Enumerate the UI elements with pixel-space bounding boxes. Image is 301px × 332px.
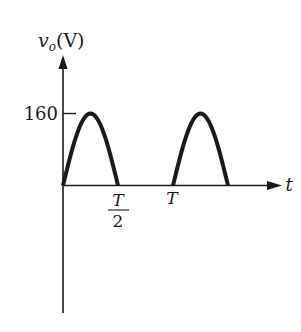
- x-axis-label: t: [285, 174, 293, 195]
- x-axis-arrow-icon: [267, 181, 282, 190]
- y-tick-label-160: 160: [24, 103, 58, 124]
- y-axis-label-unit: (V): [56, 29, 85, 51]
- x-tick-label-half-denominator: 2: [113, 211, 124, 231]
- chart-svg: vo(V) 160 T 2 T t: [0, 0, 301, 332]
- y-axis-arrow-icon: [59, 55, 68, 69]
- half-wave-pulse-2: [173, 114, 228, 186]
- y-axis-label-sub: o: [49, 40, 56, 54]
- chart-container: vo(V) 160 T 2 T t: [0, 0, 301, 332]
- y-axis-label: vo(V): [38, 29, 85, 54]
- half-wave-pulse-1: [63, 114, 118, 186]
- y-axis-label-v: v: [38, 29, 49, 51]
- x-tick-label-T: T: [166, 188, 179, 208]
- x-tick-label-half-numerator: T: [112, 190, 125, 210]
